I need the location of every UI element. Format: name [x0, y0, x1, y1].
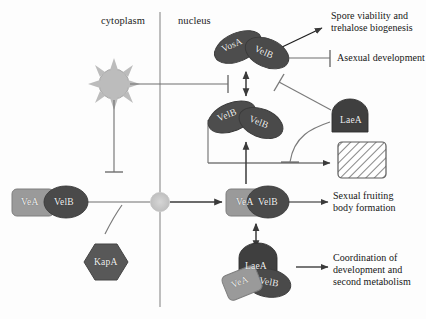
outcome-asexual-development: Asexual development [337, 52, 426, 64]
label-nucleus: nucleus [178, 15, 211, 26]
edge-light-inhibits-vosa [130, 75, 228, 93]
outcome-coordination: Coordination of development and second m… [333, 252, 426, 289]
secondary-metabolism-box [338, 142, 386, 178]
edge-kapa-transport [105, 205, 122, 234]
protein-laea [332, 99, 368, 132]
pathway-diagram: cytoplasm nucleus Spore viability and tr… [0, 0, 426, 319]
edge-laea-inhibits-vosa-velb [274, 74, 331, 110]
edge-laea-inhibits-metabolism [281, 122, 330, 162]
complex-cyto-vea-velb [12, 186, 88, 218]
nuclear-pore-icon [151, 193, 170, 212]
edge-vosa-inhibits-asexual [288, 50, 330, 67]
outcome-sexual-fruiting: Sexual fruiting body formation [333, 190, 425, 214]
outcome-spore-viability: Spore viability and trehalose biogenesis [331, 10, 426, 34]
complex-laea-vea-velb [220, 243, 293, 302]
complex-velb-velb [204, 95, 288, 145]
label-cytoplasm: cytoplasm [101, 15, 145, 26]
edge-vosa-spore-viability [280, 28, 322, 48]
edge-light-inhibits-vea-velb [105, 100, 123, 172]
complex-nuc-vea-velb [226, 186, 289, 218]
protein-kapa [84, 244, 128, 280]
complex-vosa-velb [209, 24, 293, 75]
